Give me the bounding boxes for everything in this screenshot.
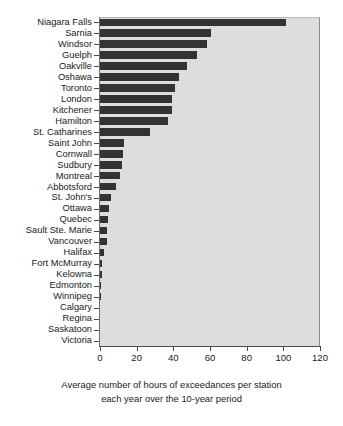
category-label: Quebec bbox=[0, 214, 92, 225]
bar bbox=[100, 95, 172, 102]
bar bbox=[100, 216, 108, 223]
bar-row: Cornwall bbox=[0, 149, 343, 160]
category-label: Kelowna bbox=[0, 269, 92, 280]
y-axis-tick bbox=[94, 308, 99, 309]
bar-row: Toronto bbox=[0, 83, 343, 94]
y-axis-tick bbox=[94, 198, 99, 199]
category-label: St. Catharines bbox=[0, 127, 92, 138]
x-axis-tick bbox=[137, 347, 138, 351]
bar-row: St. John's bbox=[0, 192, 343, 203]
bar bbox=[100, 128, 150, 135]
bar-row: Oakville bbox=[0, 61, 343, 72]
category-label: Guelph bbox=[0, 50, 92, 61]
category-label: London bbox=[0, 94, 92, 105]
bar-row: Quebec bbox=[0, 214, 343, 225]
bar-row: Kitchener bbox=[0, 105, 343, 116]
bar bbox=[100, 260, 102, 267]
bar-row: Victoria bbox=[0, 335, 343, 346]
y-axis-tick bbox=[94, 330, 99, 331]
bar-row: Oshawa bbox=[0, 72, 343, 83]
y-axis-tick bbox=[94, 99, 99, 100]
y-axis-tick bbox=[94, 22, 99, 23]
bar bbox=[100, 84, 175, 91]
bar bbox=[100, 183, 116, 190]
category-label: Sarnia bbox=[0, 28, 92, 39]
y-axis-tick bbox=[94, 242, 99, 243]
category-label: Niagara Falls bbox=[0, 17, 92, 28]
category-label: Calgary bbox=[0, 302, 92, 313]
category-label: Ottawa bbox=[0, 203, 92, 214]
bar-row: Vancouver bbox=[0, 236, 343, 247]
bar-row: Winnipeg bbox=[0, 291, 343, 302]
bar bbox=[100, 51, 197, 58]
y-axis-tick bbox=[94, 209, 99, 210]
category-label: Kitchener bbox=[0, 105, 92, 116]
bar-row: Sault Ste. Marie bbox=[0, 225, 343, 236]
category-label: Cornwall bbox=[0, 149, 92, 160]
bar bbox=[100, 249, 104, 256]
bar-row: Kelowna bbox=[0, 269, 343, 280]
category-label: Abbotsford bbox=[0, 182, 92, 193]
bar-row: Windsor bbox=[0, 39, 343, 50]
bar-row: Regina bbox=[0, 313, 343, 324]
category-label: Halifax bbox=[0, 247, 92, 258]
bar-row: St. Catharines bbox=[0, 127, 343, 138]
category-label: Sault Ste. Marie bbox=[0, 225, 92, 236]
x-axis-caption: Average number of hours of exceedances p… bbox=[0, 378, 343, 405]
y-axis-tick bbox=[94, 264, 99, 265]
y-axis-tick bbox=[94, 275, 99, 276]
y-axis-tick bbox=[94, 132, 99, 133]
y-axis-tick bbox=[94, 297, 99, 298]
category-label: Sudbury bbox=[0, 160, 92, 171]
bar bbox=[100, 271, 102, 278]
bar bbox=[100, 194, 111, 201]
bar-row: Halifax bbox=[0, 247, 343, 258]
bar-row: Abbotsford bbox=[0, 182, 343, 193]
bar bbox=[100, 172, 120, 179]
x-axis-tick bbox=[100, 347, 101, 351]
y-axis-tick bbox=[94, 110, 99, 111]
y-axis-tick bbox=[94, 341, 99, 342]
y-axis-tick bbox=[94, 88, 99, 89]
category-label: Windsor bbox=[0, 39, 92, 50]
x-axis-tick-label: 120 bbox=[300, 352, 340, 364]
x-axis-tick-label: 100 bbox=[263, 352, 303, 364]
bar-row: Sarnia bbox=[0, 28, 343, 39]
bar-row: Sudbury bbox=[0, 160, 343, 171]
caption-line-1: Average number of hours of exceedances p… bbox=[0, 378, 343, 392]
y-axis-tick bbox=[94, 165, 99, 166]
y-axis-tick bbox=[94, 220, 99, 221]
category-label: Regina bbox=[0, 313, 92, 324]
x-axis-tick-label: 40 bbox=[153, 352, 193, 364]
y-axis-tick bbox=[94, 231, 99, 232]
bar-row: Edmonton bbox=[0, 280, 343, 291]
category-label: Montreal bbox=[0, 171, 92, 182]
x-axis-tick bbox=[173, 347, 174, 351]
bar bbox=[100, 161, 122, 168]
y-axis-tick bbox=[94, 55, 99, 56]
bar-row: Saskatoon bbox=[0, 324, 343, 335]
bar bbox=[100, 29, 211, 36]
bar bbox=[100, 293, 101, 300]
category-label: St. John's bbox=[0, 192, 92, 203]
x-axis-tick bbox=[247, 347, 248, 351]
caption-line-2: each year over the 10-year period bbox=[0, 392, 343, 406]
x-axis-tick bbox=[320, 347, 321, 351]
bar-row: Montreal bbox=[0, 171, 343, 182]
bar bbox=[100, 73, 179, 80]
x-axis-tick bbox=[210, 347, 211, 351]
x-axis-tick-label: 80 bbox=[227, 352, 267, 364]
y-axis-tick bbox=[94, 121, 99, 122]
y-axis-tick bbox=[94, 154, 99, 155]
bar-row: Fort McMurray bbox=[0, 258, 343, 269]
bar-chart-figure: Niagara FallsSarniaWindsorGuelphOakville… bbox=[0, 0, 343, 426]
y-axis-tick bbox=[94, 253, 99, 254]
x-axis-tick-label: 0 bbox=[80, 352, 120, 364]
bar-row: Niagara Falls bbox=[0, 17, 343, 28]
y-axis-tick bbox=[94, 286, 99, 287]
bar bbox=[100, 227, 107, 234]
y-axis-tick bbox=[94, 77, 99, 78]
x-axis-tick-label: 60 bbox=[190, 352, 230, 364]
bar bbox=[100, 139, 124, 146]
bar bbox=[100, 106, 172, 113]
